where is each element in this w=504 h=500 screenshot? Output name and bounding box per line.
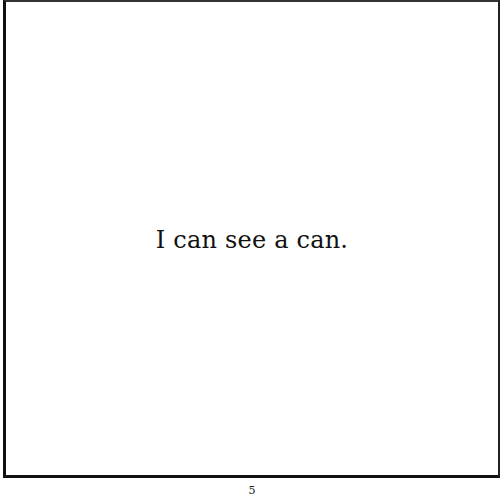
page-number: 5 xyxy=(0,484,504,497)
page-sentence: I can see a can. xyxy=(0,226,504,254)
